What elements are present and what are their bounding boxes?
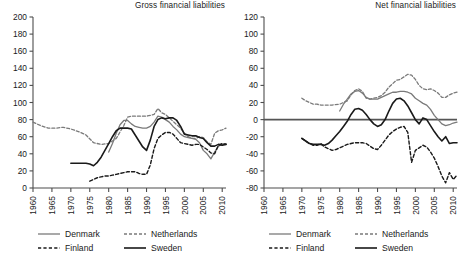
plot-area-gross: 0204060801001201401601802001960196519701…: [0, 0, 231, 224]
y-tick-label: -60: [246, 166, 258, 176]
x-tick-label: 1970: [297, 196, 307, 215]
y-tick-label: 200: [13, 12, 27, 22]
panel-gross: Gross financial liabilities 020406080100…: [0, 0, 231, 258]
y-tick-label: 0: [22, 183, 27, 193]
legend-label-sweden: Sweden: [151, 243, 182, 253]
figure-panels: Gross financial liabilities 020406080100…: [0, 0, 462, 258]
series-line-sweden: [71, 118, 226, 166]
x-tick-label: 1995: [392, 196, 402, 215]
y-tick-label: 80: [18, 115, 28, 125]
y-tick-label: -80: [246, 183, 258, 193]
y-tick-label: 40: [18, 149, 28, 159]
x-tick-label: 2000: [411, 196, 421, 215]
legend-net: DenmarkNetherlandsFinlandSweden: [231, 224, 462, 258]
legend-gross: DenmarkNetherlandsFinlandSweden: [0, 224, 231, 258]
x-tick-label: 1980: [104, 196, 114, 215]
y-tick-label: 20: [249, 98, 259, 108]
legend-label-netherlands: Netherlands: [382, 229, 428, 239]
x-tick-label: 2000: [180, 196, 190, 215]
x-tick-label: 1975: [316, 196, 326, 215]
x-tick-label: 1980: [335, 196, 345, 215]
x-tick-label: 1960: [28, 196, 38, 215]
y-tick-label: 100: [244, 29, 258, 39]
series-line-denmark: [109, 116, 226, 159]
legend-label-netherlands: Netherlands: [151, 229, 197, 239]
y-tick-label: -20: [246, 132, 258, 142]
legend-label-denmark: Denmark: [65, 229, 101, 239]
y-tick-label: 180: [13, 29, 27, 39]
x-tick-label: 1995: [161, 196, 171, 215]
y-tick-label: 60: [18, 132, 28, 142]
y-tick-label: 100: [13, 98, 27, 108]
plot-area-net: -80-60-40-200204060801001201960196519701…: [231, 0, 462, 224]
legend-label-denmark: Denmark: [296, 229, 332, 239]
legend-label-sweden: Sweden: [382, 243, 413, 253]
y-tick-label: 0: [253, 115, 258, 125]
y-tick-label: 80: [249, 46, 259, 56]
x-tick-label: 2010: [217, 196, 227, 215]
x-tick-label: 2005: [429, 196, 439, 215]
y-tick-label: 140: [13, 63, 27, 73]
x-tick-label: 1975: [85, 196, 95, 215]
x-tick-label: 1990: [142, 196, 152, 215]
y-tick-label: 40: [249, 80, 259, 90]
x-tick-label: 1985: [123, 196, 133, 215]
y-tick-label: -40: [246, 149, 258, 159]
y-tick-label: 60: [249, 63, 259, 73]
y-tick-label: 160: [13, 46, 27, 56]
x-tick-label: 1965: [47, 196, 57, 215]
x-tick-label: 2005: [198, 196, 208, 215]
x-tick-label: 1965: [278, 196, 288, 215]
x-tick-label: 1990: [373, 196, 383, 215]
x-tick-label: 1970: [66, 196, 76, 215]
x-tick-label: 1985: [354, 196, 364, 215]
legend-label-finland: Finland: [65, 243, 93, 253]
series-line-netherlands: [33, 108, 226, 144]
legend-label-finland: Finland: [296, 243, 324, 253]
y-tick-label: 20: [18, 166, 28, 176]
y-tick-label: 120: [244, 12, 258, 22]
y-tick-label: 120: [13, 80, 27, 90]
x-tick-label: 1960: [259, 196, 269, 215]
x-tick-label: 2010: [448, 196, 458, 215]
panel-net: Net financial liabilities -80-60-40-2002…: [231, 0, 462, 258]
series-line-netherlands: [302, 74, 457, 105]
series-line-finland: [302, 126, 457, 182]
